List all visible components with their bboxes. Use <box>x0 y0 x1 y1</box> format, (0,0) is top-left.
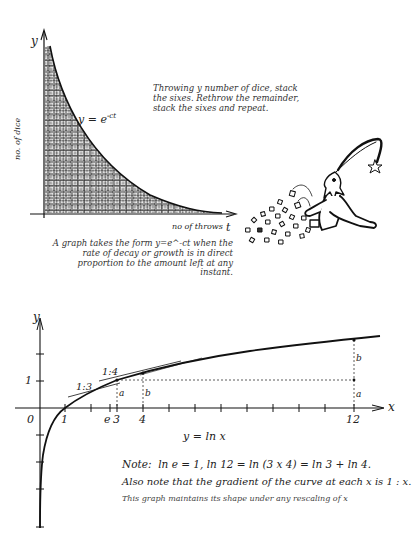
star-icon <box>368 160 382 173</box>
ln-curve-label: y = ln x <box>183 430 226 443</box>
decay-y-label: y <box>31 34 38 48</box>
decay-curve-label: y = e-ct <box>78 112 116 126</box>
note-line-3: This graph maintains its shape under any… <box>122 494 348 503</box>
dice-experiment-note: Throwing y number of dice, stack the six… <box>153 84 303 113</box>
x-tick-1-label: 1 <box>61 413 68 426</box>
segment-a-label: a <box>119 388 124 398</box>
decay-x-label: t <box>226 221 230 234</box>
note-line-2: Also note that the gradient of the curve… <box>122 476 411 488</box>
decay-x-axis-note: no of throws <box>172 222 223 231</box>
ln-x-label: x <box>388 400 395 414</box>
tangent-1-3-label: 1:3 <box>76 381 92 392</box>
x-tick-12-label: 12 <box>346 413 360 426</box>
y-tick-1-label: 1 <box>25 374 32 387</box>
decay-y-axis-note: no. of dice <box>13 118 22 160</box>
decay-chart <box>30 30 236 220</box>
tangent-1-4-label: 1:4 <box>102 366 118 377</box>
decay-caption: A graph takes the form y=e^-ct when the … <box>48 239 233 278</box>
x-tick-e-label: e <box>104 413 111 426</box>
x-tick-4-label: 4 <box>139 413 146 426</box>
segment-a-label-12: a <box>356 389 361 399</box>
wizard-illustration <box>246 139 382 244</box>
segment-b-label: b <box>145 388 151 398</box>
dice-stack-area <box>40 40 230 220</box>
note-line-1: Note: ln e = 1, ln 12 = ln (3 x 4) = ln … <box>122 458 371 470</box>
origin-label: 0 <box>27 413 34 426</box>
ln-y-label: y <box>33 310 40 324</box>
x-tick-3-label: 3 <box>113 413 120 426</box>
segment-b-label-12: b <box>356 353 362 363</box>
